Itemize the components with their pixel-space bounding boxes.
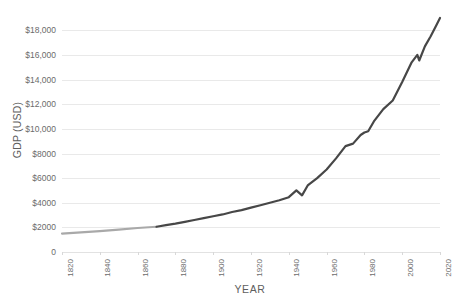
x-tick-mark (289, 252, 290, 255)
x-tick-mark (175, 252, 176, 255)
x-tick-mark (62, 252, 63, 255)
plot-area: 0$2000$4000$6000$8000$10,000$12,000$14,0… (62, 18, 440, 252)
x-tick-label: 1900 (217, 259, 226, 277)
series-line (62, 227, 157, 234)
x-tick-mark (327, 252, 328, 255)
y-tick-label: $16,000 (25, 50, 56, 60)
x-tick-label: 1840 (103, 259, 112, 277)
x-tick-label: 1980 (368, 259, 377, 277)
y-tick-label: $8000 (32, 149, 56, 159)
x-tick-mark (213, 252, 214, 255)
series-line (157, 18, 441, 227)
x-tick-label: 1880 (179, 259, 188, 277)
y-tick-label: $2000 (32, 222, 56, 232)
x-tick-label: 2020 (444, 259, 453, 277)
y-tick-label: $10,000 (25, 124, 56, 134)
x-tick-label: 1820 (66, 259, 75, 277)
x-tick-label: 1860 (141, 259, 150, 277)
x-tick-mark (100, 252, 101, 255)
series-layer (62, 18, 440, 252)
x-tick-label: 2000 (406, 259, 415, 277)
x-tick-label: 1960 (330, 259, 339, 277)
y-tick-label: $14,000 (25, 75, 56, 85)
y-tick-label: 0 (51, 247, 56, 257)
y-axis-title-label: GDP (USD) (11, 102, 23, 158)
x-tick-mark (138, 252, 139, 255)
x-axis-title: YEAR (55, 283, 445, 295)
x-tick-mark (402, 252, 403, 255)
y-tick-label: $12,000 (25, 99, 56, 109)
x-tick-label: 1940 (292, 259, 301, 277)
x-tick-label: 1920 (255, 259, 264, 277)
y-tick-label: $4000 (32, 198, 56, 208)
x-tick-mark (251, 252, 252, 255)
x-tick-mark (440, 252, 441, 255)
y-tick-label: $6000 (32, 173, 56, 183)
y-tick-label: $18,000 (25, 25, 56, 35)
x-tick-mark (364, 252, 365, 255)
